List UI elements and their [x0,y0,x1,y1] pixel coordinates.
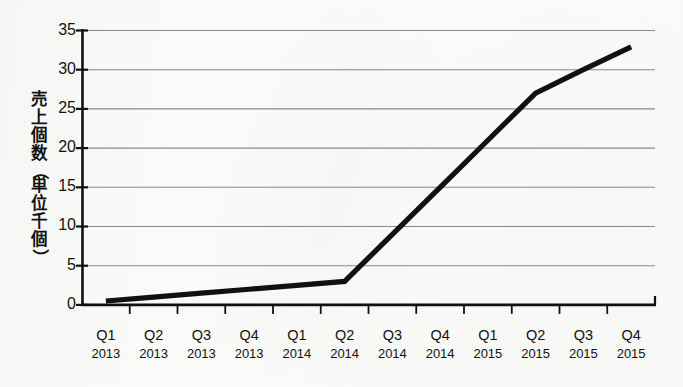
x-tick-year: 2013 [82,345,130,362]
x-tick-label-q3-2015: Q32015 [560,326,608,362]
x-tick-quarter: Q3 [178,326,226,345]
gridlines [82,31,655,266]
chart-figure: 売 上 個 数 （ 単 位 千 個 ） 35 30 25 20 15 10 5 … [0,0,683,387]
x-tick-quarter: Q2 [512,326,560,345]
x-tick-quarter: Q1 [273,326,321,345]
x-tick-year: 2014 [369,345,417,362]
x-tick-label-q1-2015: Q12015 [464,326,512,362]
x-tick-label-q4-2013: Q42013 [225,326,273,362]
x-tick-quarter: Q3 [369,326,417,345]
x-tick-year: 2015 [560,345,608,362]
x-tick-year: 2013 [225,345,273,362]
x-tick-label-q2-2013: Q22013 [130,326,178,362]
x-tick-quarter: Q2 [130,326,178,345]
x-tick-marks [130,305,608,314]
x-tick-year: 2014 [416,345,464,362]
x-tick-year: 2013 [130,345,178,362]
x-tick-label-q2-2015: Q22015 [512,326,560,362]
x-tick-label-q3-2014: Q32014 [369,326,417,362]
x-tick-quarter: Q1 [82,326,130,345]
x-tick-year: 2014 [273,345,321,362]
axes [76,29,656,306]
x-tick-year: 2015 [607,345,655,362]
x-tick-quarter: Q4 [225,326,273,345]
x-tick-year: 2015 [512,345,560,362]
x-tick-quarter: Q1 [464,326,512,345]
x-tick-year: 2013 [178,345,226,362]
x-tick-label-q1-2013: Q12013 [82,326,130,362]
x-tick-quarter: Q3 [560,326,608,345]
x-tick-quarter: Q4 [416,326,464,345]
x-tick-quarter: Q4 [607,326,655,345]
x-tick-quarter: Q2 [321,326,369,345]
x-tick-label-q2-2014: Q22014 [321,326,369,362]
x-tick-label-q4-2015: Q42015 [607,326,655,362]
x-tick-label-q1-2014: Q12014 [273,326,321,362]
x-tick-year: 2014 [321,345,369,362]
x-tick-label-q3-2013: Q32013 [178,326,226,362]
series-line-sales [106,47,631,301]
x-tick-label-q4-2014: Q42014 [416,326,464,362]
x-tick-year: 2015 [464,345,512,362]
